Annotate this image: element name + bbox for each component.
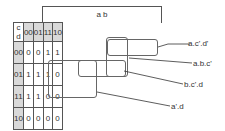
leader-lines bbox=[0, 0, 225, 131]
label-b-c-d: b.c'.d bbox=[184, 80, 203, 89]
label-a-b-c: a.b.c' bbox=[193, 59, 212, 68]
label-a-c-d: a.c'.d' bbox=[188, 39, 208, 48]
label-a-d: a'.d bbox=[171, 102, 184, 111]
